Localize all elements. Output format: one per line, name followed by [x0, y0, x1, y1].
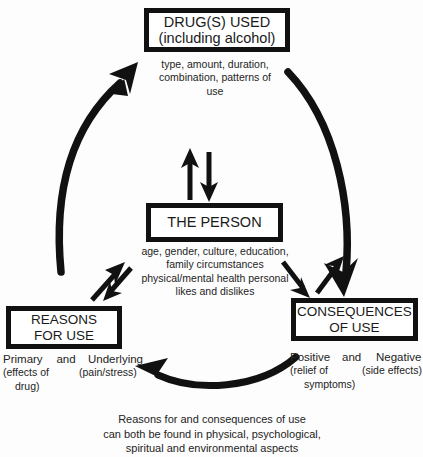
- reasons-to-drugs-arc: [59, 62, 138, 272]
- consequences-sub-and: and: [342, 350, 376, 364]
- reasons-sub-underlying: Underlying: [88, 352, 143, 366]
- node-consequences-sublabels: Positive and Negative (relief of (side e…: [290, 350, 423, 391]
- reasons-sub-and: and: [56, 352, 88, 366]
- reasons-sub-row-details: (effects of (pain/stress): [3, 366, 143, 379]
- node-consequences-label-line1: CONSEQUENCES: [297, 304, 412, 319]
- node-reasons-label-line1: REASONS: [31, 312, 97, 327]
- reasons-sub-primary: Primary: [3, 352, 56, 366]
- drugs-detail-line-2: duration,: [228, 58, 269, 70]
- person-detail-line-6: dislikes: [220, 285, 254, 297]
- reasons-sub-primary-detail-1: (effects of: [3, 366, 79, 379]
- consequences-sub-negative: Negative: [376, 350, 421, 364]
- node-drugs-label-line2: (including alcohol): [159, 30, 276, 46]
- footer-note-line-1: Reasons for and consequences of use: [60, 412, 364, 427]
- node-the-person[interactable]: THE PERSON: [146, 203, 283, 242]
- node-drugs-used[interactable]: DRUG(S) USED (including alcohol): [144, 8, 290, 52]
- reasons-sub-primary-detail-2: drug): [15, 380, 40, 393]
- node-consequences-of-use[interactable]: CONSEQUENCES OF USE: [291, 298, 418, 341]
- drugs-detail-line-3: combination,: [159, 71, 219, 83]
- consequences-sub-positive: Positive: [290, 350, 342, 364]
- reasons-sub-row-primary: Primary and Underlying: [3, 352, 143, 366]
- person-detail-line-3: circumstances: [197, 258, 264, 270]
- node-consequences-label-line2: OF USE: [329, 320, 379, 335]
- consequences-sub-row-positive: Positive and Negative: [290, 350, 423, 364]
- person-detail-line-4: physical/mental health: [141, 272, 245, 284]
- reasons-sub-underlying-detail: (pain/stress): [79, 366, 137, 379]
- consequences-sub-positive-detail-1: (relief of: [290, 364, 362, 377]
- node-reasons-for-use[interactable]: REASONS FOR USE: [6, 306, 122, 349]
- person-reasons-double-arrow: [92, 262, 131, 301]
- consequences-sub-row-details: (relief of (side effects): [290, 364, 423, 377]
- node-person-details: age, gender, culture, education, family …: [136, 245, 294, 299]
- node-drugs-details: type, amount, duration, combination, pat…: [152, 58, 278, 98]
- person-detail-line-1: age, gender, culture,: [141, 245, 237, 257]
- footer-note-line-3: spiritual and environmental aspects: [60, 441, 364, 456]
- consequences-sub-row-symptoms: symptoms): [290, 378, 423, 391]
- drugs-detail-line-1: type, amount,: [161, 58, 225, 70]
- person-drugs-double-arrow: [181, 148, 218, 202]
- footer-note-line-2: can both be found in physical, psycholog…: [60, 427, 364, 442]
- consequences-to-reasons-arc: [135, 357, 296, 386]
- node-reasons-label-line2: FOR USE: [34, 328, 94, 343]
- reasons-sub-row-drug: drug): [3, 380, 143, 393]
- node-drugs-label-line1: DRUG(S) USED: [164, 14, 270, 30]
- consequences-sub-negative-detail: (side effects): [362, 364, 422, 377]
- consequences-sub-positive-detail-2: symptoms): [304, 378, 355, 391]
- footer-note: Reasons for and consequences of use can …: [60, 412, 364, 456]
- node-reasons-sublabels: Primary and Underlying (effects of (pain…: [3, 352, 143, 393]
- node-person-label: THE PERSON: [167, 214, 261, 230]
- drugs-to-consequences-arc: [288, 72, 358, 297]
- diagram-canvas: DRUG(S) USED (including alcohol) type, a…: [0, 0, 423, 457]
